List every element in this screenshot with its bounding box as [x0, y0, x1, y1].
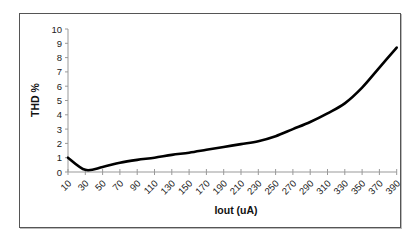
x-tick-label: 210	[227, 178, 246, 197]
x-tick-label: 190	[210, 178, 229, 197]
x-tick-label: 270	[279, 178, 298, 197]
x-tick-label: 150	[176, 178, 195, 197]
x-tick-label: 310	[314, 178, 333, 197]
y-axis-title: THD %	[29, 82, 41, 116]
y-tick-label: 10	[51, 24, 62, 35]
x-tick-label: 90	[127, 178, 142, 193]
x-tick-label: 30	[75, 178, 90, 193]
x-tick-label: 50	[93, 178, 108, 193]
y-tick-label: 3	[57, 124, 62, 135]
y-tick-label: 9	[57, 38, 62, 49]
y-tick-label: 6	[57, 81, 62, 92]
x-tick-label: 10	[58, 178, 73, 193]
x-tick-label: 70	[110, 178, 125, 193]
x-tick-label: 250	[262, 178, 281, 197]
y-tick-label: 2	[57, 138, 62, 149]
x-tick-label: 230	[245, 178, 264, 197]
x-tick-label: 330	[331, 178, 350, 197]
x-axis: 1030507090110130150170190210230250270290…	[58, 169, 402, 197]
y-tick-label: 0	[57, 167, 62, 178]
x-tick-label: 110	[141, 178, 159, 196]
x-tick-label: 390	[383, 178, 402, 197]
y-tick-label: 5	[57, 95, 62, 106]
x-tick-label: 170	[193, 178, 212, 197]
x-axis-title: Iout (uA)	[214, 204, 257, 216]
y-tick-label: 4	[57, 109, 62, 120]
y-tick-label: 1	[57, 152, 62, 163]
y-axis: 012345678910	[51, 24, 68, 178]
x-tick-label: 290	[297, 178, 316, 197]
y-tick-label: 7	[57, 66, 62, 77]
thd-series-line	[68, 48, 397, 171]
x-tick-label: 370	[366, 178, 385, 197]
x-tick-label: 350	[349, 178, 368, 197]
x-tick-label: 130	[158, 178, 177, 197]
y-tick-label: 8	[57, 52, 62, 63]
thd-line-chart: 012345678910 103050709011013015017019021…	[0, 0, 418, 242]
